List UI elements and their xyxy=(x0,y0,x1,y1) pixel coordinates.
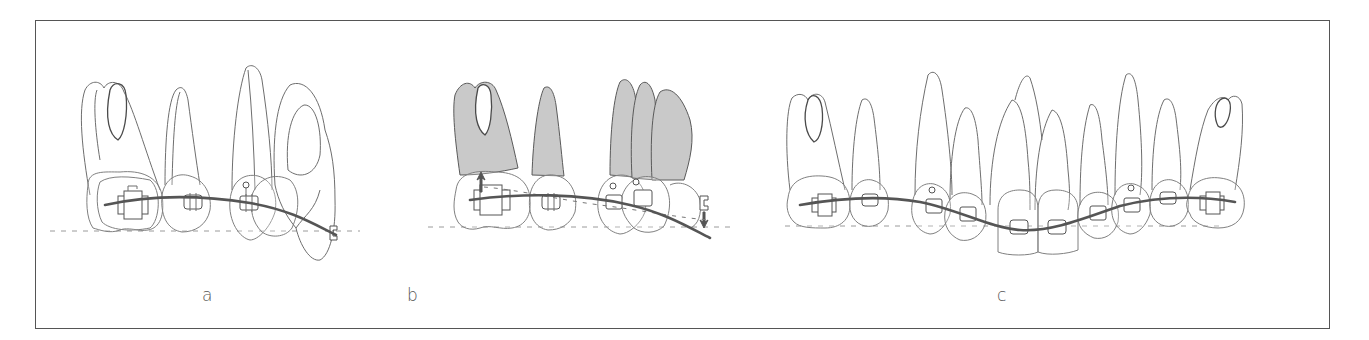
full-arch-teeth-icon xyxy=(787,72,1245,255)
panel-label-a: a xyxy=(202,285,212,305)
molar-tooth-icon xyxy=(454,82,531,229)
panel-label-b: b xyxy=(407,285,418,305)
premolar-tooth-icon xyxy=(529,87,575,230)
panel-a-drawing xyxy=(50,66,360,261)
panel-c-drawing xyxy=(785,72,1244,255)
premolar-tooth-icon xyxy=(162,88,211,232)
panel-label-c: c xyxy=(997,285,1006,305)
molar-tooth-icon xyxy=(81,82,162,231)
panel-b-drawing xyxy=(428,80,735,238)
